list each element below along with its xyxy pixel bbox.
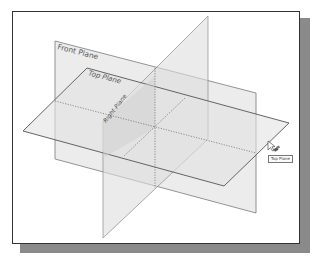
plane-scene[interactable]: Front Plane Top Plane Right Plane — [0, 0, 316, 258]
hover-tooltip: Top Plane — [268, 155, 293, 163]
